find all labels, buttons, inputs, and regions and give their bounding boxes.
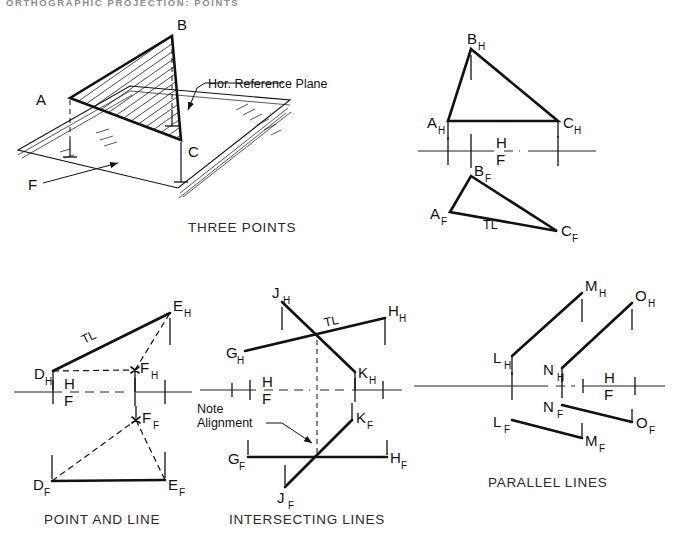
fold-label-H-intersecting: H [262,373,273,390]
point-label-C: C [188,143,199,160]
point-label-L-top: L [493,349,501,366]
point-sub-MF: F [599,443,605,454]
point-label-E-front: E [168,476,178,493]
fold-line-hf-parallel [414,372,665,400]
point-label-G-top: G [226,344,238,361]
drawing-sheet: ORTHOGRAPHIC PROJECTION: POINTS [0,0,683,545]
note-alignment-line-2: Alignment [197,416,253,430]
point-sub-CH: H [574,125,581,136]
point-sub-CF: F [572,233,578,244]
point-sub-KH: H [369,375,376,386]
triangle-abc-pictorial [40,8,257,234]
note-alignment-line-1: Note [197,402,223,416]
true-length-label-intersecting: TL [323,313,340,330]
point-label-A: A [36,91,46,108]
fold-label-F-point-and-line: F [64,392,73,409]
point-sub-MH: H [599,288,606,299]
true-length-label-point-and-line: TL [79,328,98,347]
point-sub-GF: F [239,461,245,472]
point-label-G-front: G [228,450,240,467]
point-label-A-front: A [430,205,440,222]
point-label-D-front: D [33,476,44,493]
frontal-direction-label: F [28,176,37,193]
caption-intersecting-lines: INTERSECTING LINES [229,512,385,527]
point-label-J-top: J [272,284,280,301]
fold-label-H-point-and-line: H [64,375,75,392]
figure-intersecting-lines: G H H H J H K H TL H F [197,284,407,527]
point-sub-HH: H [399,313,406,324]
horizontal-reference-plane [18,86,291,198]
caption-point-and-line: POINT AND LINE [44,512,160,527]
point-label-M-front: M [585,432,598,449]
fold-label-F-parallel: F [604,386,613,403]
point-sub-AH: H [438,125,445,136]
point-label-O-front: O [636,414,648,431]
point-label-C-front: C [561,222,572,239]
point-sub-HF: F [401,460,407,471]
point-label-D-top: D [34,365,45,382]
true-length-label-three-points: TL [483,218,498,232]
frontal-direction-arrow [43,163,118,183]
point-label-L-front: L [493,413,501,430]
point-label-M-top: M [585,277,598,294]
figure-pictorial-three-points: A B C Hor. Reference Plane F THREE POINT… [18,8,328,235]
point-sub-OF: F [649,425,655,436]
point-sub-BH: H [478,41,485,52]
point-sub-GH: H [237,355,244,366]
figure-point-and-line: D H E H F H TL H F [14,297,192,527]
hor-reference-plane-label: Hor. Reference Plane [208,77,328,91]
point-sub-JH: H [283,295,290,306]
fold-label-F-intersecting: F [262,390,271,407]
point-label-J-front: J [277,489,285,506]
point-label-BH: B [467,30,477,47]
point-label-N-front: N [543,398,554,415]
point-label-O-top: O [635,287,647,304]
point-sub-OH: H [648,298,655,309]
note-alignment-leader [266,423,312,443]
point-label-N-top: N [543,361,554,378]
point-label-B-front: B [474,162,484,179]
point-sub-LH: H [504,360,511,371]
point-sub-FF: F [153,420,159,431]
caption-parallel-lines: PARALLEL LINES [488,475,607,490]
point-sub-DF: F [44,487,50,498]
point-label-E-top: E [173,297,183,314]
point-label-AH: A [427,114,437,131]
figure-parallel-lines: L H M H N H O H H F [414,277,665,490]
point-label-F-front: F [142,409,151,426]
triangle-hatching [40,8,257,234]
fold-line-hf-three-points [418,134,596,168]
point-sub-AF: F [441,216,447,227]
point-label-B: B [177,16,187,33]
point-sub-KF: F [367,420,373,431]
point-sub-JF: F [288,500,294,511]
projector-lines-pictorial [63,40,188,182]
point-label-H-top: H [388,302,399,319]
point-label-H-front: H [390,449,401,466]
technical-drawing-canvas: A B C Hor. Reference Plane F THREE POINT… [0,0,683,545]
point-sub-DH: H [45,376,52,387]
point-sub-BF: F [485,173,491,184]
fold-line-hf-point-and-line [14,378,192,406]
point-sub-FH: H [151,370,158,381]
point-label-F-top: F [140,359,149,376]
fold-label-H-parallel: H [604,369,615,386]
point-sub-EF: F [179,487,185,498]
point-label-K-front: K [356,409,366,426]
figure-ortho-three-points: A H B H H C H H F A F B F C [418,30,596,244]
point-sub-NF: F [557,409,563,420]
fold-label-H-three-points: H [496,134,507,151]
point-label-C-top: C [563,114,574,131]
point-sub-LF: F [504,424,510,435]
caption-three-points: THREE POINTS [188,220,296,235]
fold-label-F-three-points: F [496,151,505,168]
point-sub-NH: H [557,372,564,383]
point-sub-EH: H [184,308,191,319]
point-label-K-top: K [358,364,368,381]
